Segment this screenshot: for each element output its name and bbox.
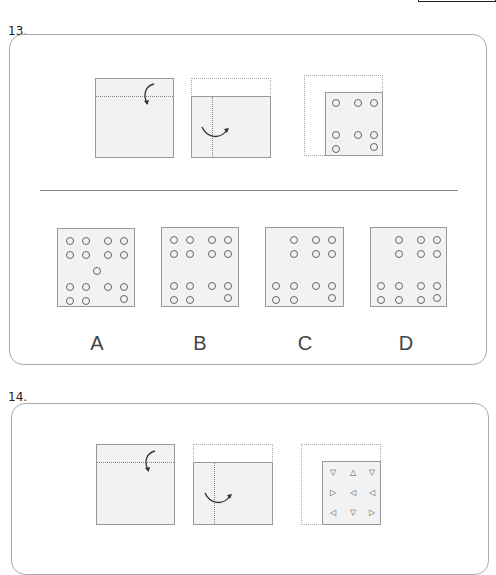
hole-icon <box>395 236 403 244</box>
hole-icon <box>354 131 362 139</box>
hole-icon <box>290 296 298 304</box>
hole-icon <box>395 250 403 258</box>
fold-arrow-icon <box>200 124 230 144</box>
hole-icon <box>186 282 194 290</box>
hole-icon <box>208 236 216 244</box>
hole-icon <box>66 237 74 245</box>
hole-icon <box>370 143 378 151</box>
hole-icon <box>312 236 320 244</box>
q13-step1-sheet <box>95 78 174 158</box>
hole-icon <box>120 251 128 259</box>
hole-icon <box>66 283 74 291</box>
hole-icon <box>328 282 336 290</box>
fold-arrow-icon <box>141 450 161 475</box>
triangle-down-icon: ▽ <box>329 469 337 477</box>
hole-icon <box>312 250 320 258</box>
hole-icon <box>332 145 340 153</box>
hole-icon <box>377 282 385 290</box>
hole-icon <box>224 282 232 290</box>
fold-arrow-icon <box>203 490 233 510</box>
hole-icon <box>170 282 178 290</box>
hole-icon <box>433 250 441 258</box>
option-c-label[interactable]: C <box>285 332 325 355</box>
hole-icon <box>120 237 128 245</box>
hole-icon <box>104 251 112 259</box>
hole-icon <box>354 99 362 107</box>
hole-icon <box>417 296 425 304</box>
hole-icon <box>186 296 194 304</box>
fold-line-horizontal <box>97 462 174 463</box>
hole-icon <box>66 251 74 259</box>
hole-icon <box>272 282 280 290</box>
hole-icon <box>224 294 232 302</box>
hole-icon <box>433 294 441 302</box>
hole-icon <box>417 250 425 258</box>
hole-icon <box>377 296 385 304</box>
hole-icon <box>395 282 403 290</box>
triangle-up-icon: △ <box>349 469 357 477</box>
hole-icon <box>370 99 378 107</box>
page-corner-box <box>418 0 496 2</box>
fold-line-horizontal <box>96 96 173 97</box>
hole-icon <box>82 283 90 291</box>
fold-arrow-icon <box>140 83 160 108</box>
triangle-left-icon: ◁ <box>329 509 337 517</box>
option-b-label[interactable]: B <box>180 332 220 355</box>
hole-icon <box>186 250 194 258</box>
hole-icon <box>208 250 216 258</box>
hole-icon <box>66 297 74 305</box>
hole-icon <box>170 236 178 244</box>
hole-icon <box>224 236 232 244</box>
hole-icon <box>104 283 112 291</box>
hole-icon <box>170 296 178 304</box>
hole-icon <box>93 267 101 275</box>
hole-icon <box>208 282 216 290</box>
option-b-sheet[interactable] <box>161 227 239 307</box>
hole-icon <box>312 282 320 290</box>
q14-step1-sheet <box>96 444 175 525</box>
hole-icon <box>332 131 340 139</box>
q13-step3-sheet <box>325 92 383 156</box>
triangle-left-icon: ◁ <box>349 489 357 497</box>
hole-icon <box>332 99 340 107</box>
triangle-down-icon: ▽ <box>349 509 357 517</box>
q13-step2-ghost <box>191 78 271 97</box>
question-14-number: 14. <box>8 390 27 404</box>
hole-icon <box>395 296 403 304</box>
triangle-left-icon: ◁ <box>368 489 376 497</box>
hole-icon <box>290 282 298 290</box>
hole-icon <box>433 282 441 290</box>
q14-step2-ghost <box>193 444 273 463</box>
hole-icon <box>104 237 112 245</box>
option-a-sheet[interactable] <box>57 228 135 307</box>
triangle-right-icon: ▷ <box>368 509 376 517</box>
hole-icon <box>417 236 425 244</box>
triangle-right-icon: ▷ <box>329 489 337 497</box>
hole-icon <box>82 297 90 305</box>
option-d-label[interactable]: D <box>386 332 426 355</box>
triangle-down-icon: ▽ <box>368 469 376 477</box>
hole-icon <box>433 236 441 244</box>
q14-step3-sheet: ▽ △ ▽ ▷ ◁ ◁ ◁ ▽ ▷ <box>322 461 381 525</box>
hole-icon <box>328 294 336 302</box>
hole-icon <box>82 251 90 259</box>
hole-icon <box>186 236 194 244</box>
hole-icon <box>328 250 336 258</box>
option-a-label[interactable]: A <box>77 332 117 355</box>
hole-icon <box>290 236 298 244</box>
option-c-sheet[interactable] <box>265 227 344 307</box>
hole-icon <box>272 296 280 304</box>
hole-icon <box>120 295 128 303</box>
hole-icon <box>417 282 425 290</box>
hole-icon <box>290 250 298 258</box>
hole-icon <box>82 237 90 245</box>
option-d-sheet[interactable] <box>370 227 447 307</box>
hole-icon <box>328 236 336 244</box>
hole-icon <box>370 131 378 139</box>
hole-icon <box>224 250 232 258</box>
hole-icon <box>170 250 178 258</box>
divider-line <box>40 190 458 191</box>
hole-icon <box>120 283 128 291</box>
